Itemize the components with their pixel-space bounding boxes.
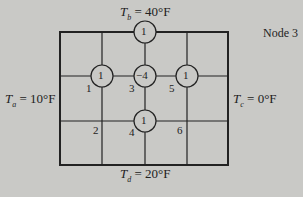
node-label-2: 2 (93, 124, 99, 136)
diagram-title: Node 3 (263, 26, 298, 41)
boundary-top-label: Tb = 40°F (120, 4, 171, 22)
boundary-left-label: Ta = 10°F (5, 91, 56, 109)
stencil-right-value: 1 (183, 69, 189, 81)
node-label-5: 5 (169, 82, 175, 94)
boundary-bottom-label: Td = 20°F (120, 166, 171, 184)
node-label-6: 6 (177, 124, 183, 136)
node-label-4: 4 (129, 126, 135, 138)
node-label-3: 3 (129, 82, 135, 94)
stencil-top-value: 1 (141, 25, 147, 37)
stencil-left-value: 1 (98, 69, 104, 81)
boundary-right-label: Tc = 0°F (233, 91, 277, 109)
stencil-bottom-value: 1 (141, 114, 147, 126)
node-label-1: 1 (86, 82, 92, 94)
stencil-center-value: −4 (136, 69, 148, 81)
